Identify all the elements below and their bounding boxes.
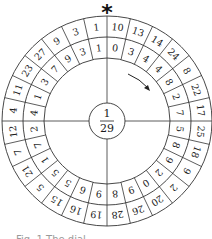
inner-segment-value: 0 (141, 177, 152, 190)
inner-segment-value: 3 (78, 45, 87, 57)
outer-segment-value: 25 (195, 125, 207, 138)
outer-segment-value: 27 (32, 46, 48, 62)
outer-segment-value: 3 (71, 26, 80, 38)
outer-segment-value: 2 (168, 182, 180, 194)
inner-segment-value: 4 (141, 53, 152, 66)
outer-segment-value: 15 (49, 193, 65, 209)
inner-segment-value: 7 (174, 109, 186, 116)
inner-segment-value: 7 (31, 141, 43, 150)
inner-segment-value: 9 (95, 188, 102, 200)
inner-segment-value: 6 (78, 184, 87, 196)
outer-segment-value: 20 (149, 193, 165, 209)
inner-segment-value: 1 (31, 92, 43, 101)
inner-segment-value: 7 (49, 63, 61, 75)
outer-segment-value: 22 (189, 82, 203, 97)
inner-segment-value: 1 (95, 42, 102, 54)
outer-segment-value: 23 (19, 63, 35, 79)
outer-segment-value: 12 (7, 125, 19, 138)
inner-segment-value: 2 (170, 92, 182, 101)
inner-segment-value: 3 (127, 45, 136, 57)
outer-segment-value: 18 (189, 145, 203, 160)
outer-segment-value: 21 (19, 163, 35, 179)
outer-segment-value: 28 (111, 209, 124, 221)
outer-segment-value: 9 (51, 35, 62, 48)
inner-segment-value: 9 (62, 53, 73, 66)
inner-segment-value: 9 (163, 155, 176, 166)
outer-segment-value: 26 (131, 203, 146, 217)
clockwise-arrow-icon (128, 74, 150, 91)
hub: 1 29 (89, 103, 125, 139)
outer-segment-value: 10 (111, 21, 124, 33)
hub-numerator: 1 (104, 107, 111, 120)
outer-segment-value: 19 (90, 209, 103, 221)
inner-segment-value: 0 (112, 42, 119, 54)
inner-segment-value: 5 (174, 126, 186, 133)
outer-segment-value: 16 (68, 203, 83, 217)
outer-segment-value: 11 (11, 82, 25, 97)
inner-segment-value: 8 (112, 188, 119, 200)
outer-segment-value: 24 (166, 46, 182, 62)
outer-segment-value: 8 (181, 65, 194, 76)
inner-segment-value: 4 (153, 63, 165, 75)
inner-segment-value: 2 (153, 167, 165, 179)
outer-segment-value: 4 (7, 107, 19, 114)
inner-segment-value: 2 (28, 126, 40, 133)
inner-segment-value: 1 (39, 155, 52, 166)
inner-segment-value: 5 (62, 177, 73, 190)
inner-segment-value: 8 (163, 76, 176, 87)
hub-denominator: 29 (100, 122, 114, 135)
inner-segment-value: 3 (39, 76, 52, 87)
outer-segment-value: 17 (195, 104, 207, 117)
outer-segment-value: 14 (149, 33, 165, 49)
inner-segment-value: 5 (49, 167, 61, 179)
outer-segment-value: 7 (12, 148, 24, 157)
inner-segment-value: 9 (127, 184, 136, 196)
outer-segment-value: 5 (34, 182, 46, 194)
figure-caption: Fig. 1 The dial (16, 234, 86, 239)
inner-segment-value: 8 (170, 141, 182, 150)
outer-segment-value: 1 (93, 21, 100, 33)
fraction-dial: * 10131424822172518922026281916155217124… (0, 0, 212, 239)
outer-segment-value: 9 (181, 166, 194, 177)
inner-segment-value: 4 (28, 109, 40, 116)
outer-segment-value: 13 (131, 25, 146, 39)
